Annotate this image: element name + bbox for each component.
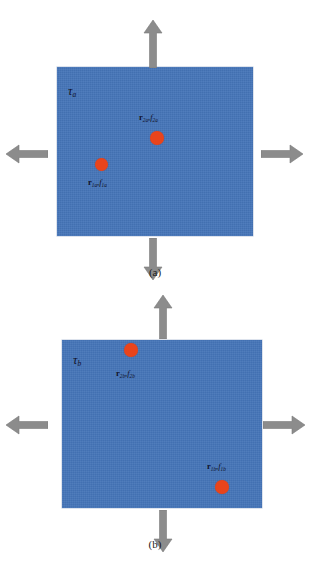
panel-caption-a: (a) (0, 266, 310, 278)
inclusion-dot-1a (95, 158, 108, 171)
r2a-subscript: 2a (143, 117, 148, 123)
r1a-subscript: 1a (92, 182, 97, 188)
panel-b: τb r2b,f2b r1b,f1b (b) (0, 290, 310, 573)
panel-caption-b: (b) (0, 538, 310, 550)
f2a-subscript: 2a (153, 117, 158, 123)
specimen-block-a (57, 67, 253, 236)
inclusion-label-2b: r2b,f2b (116, 369, 135, 378)
r1b-subscript: 1b (211, 466, 216, 472)
inclusion-dot-2a (150, 131, 164, 145)
inclusion-dot-2b (124, 343, 138, 357)
f2b-subscript: 2b (130, 373, 135, 379)
f1a-subscript: 1a (102, 182, 107, 188)
specimen-block-b (62, 340, 262, 508)
traction-arrow-up-b (152, 295, 174, 339)
traction-label-tau-b: τb (73, 354, 81, 366)
inclusion-label-1a: r1a,f1a (88, 178, 107, 187)
traction-arrow-left-a (6, 143, 48, 165)
tau-symbol-a: τ (68, 84, 73, 98)
tau-subscript-b: b (78, 359, 82, 368)
inclusion-label-1b: r1b,f1b (207, 462, 226, 471)
tau-subscript-a: a (73, 90, 77, 99)
traction-arrow-up-a (142, 20, 164, 68)
traction-arrow-left-b (6, 414, 48, 436)
inclusion-dot-1b (215, 480, 229, 494)
inclusion-label-2a: r2a,f2a (139, 113, 158, 122)
traction-label-tau-a: τa (68, 85, 76, 97)
r2b-subscript: 2b (120, 373, 125, 379)
traction-arrow-right-a (261, 143, 303, 165)
traction-arrow-right-b (263, 414, 305, 436)
f1b-subscript: 1b (221, 466, 226, 472)
tau-symbol-b: τ (73, 353, 78, 367)
panel-a: τa r2a,f2a r1a,f1a (a) (0, 0, 310, 290)
